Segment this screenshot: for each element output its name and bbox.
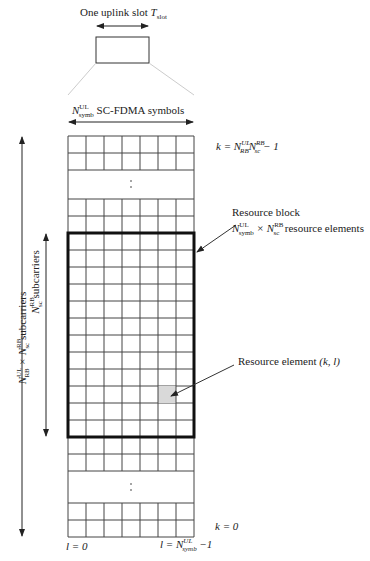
symbols-label: NULsymb SC-FDMA symbols [72, 104, 184, 116]
rb-subcarriers-label: NRBsc subcarriers [29, 237, 41, 327]
k-bottom-label: k = 0 [215, 520, 238, 532]
k-top-label: k = NULRBNRBsc − 1 [216, 140, 279, 152]
l-right-label: l = NULsymb −1 [160, 538, 212, 550]
resource-element-label: Resource element (k, l) [238, 355, 340, 367]
total-subcarriers-label: NULRB × NRBsc subcarriers [16, 278, 28, 398]
slot-label: One uplink slot Tslot [80, 6, 167, 18]
resource-block-label: Resource block NULsymb × NRBsc resource … [232, 206, 364, 234]
l-left-label: l = 0 [66, 540, 87, 552]
resource-grid-diagram [0, 0, 370, 561]
